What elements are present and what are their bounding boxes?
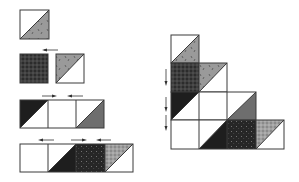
arrow-down-icon <box>165 115 168 131</box>
arrow-right-icon <box>71 139 87 142</box>
arrow-left-icon <box>67 95 83 98</box>
quilt-diagram <box>0 0 299 182</box>
assembled-block <box>165 35 285 149</box>
arrow-right-icon <box>42 95 57 98</box>
arrow-left-icon <box>38 139 54 142</box>
arrow-down-icon <box>165 97 168 112</box>
step-1-hst-unit <box>20 10 49 39</box>
step-4-row <box>20 139 133 173</box>
step-3-row <box>20 95 104 129</box>
arrow-left-icon <box>96 139 111 142</box>
arrow-down-icon <box>165 69 168 86</box>
step-2-pair <box>20 49 84 84</box>
arrow-left-icon <box>42 49 58 52</box>
